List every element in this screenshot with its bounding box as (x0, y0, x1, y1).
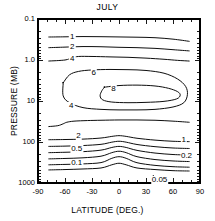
contour-label: 2 (75, 132, 81, 140)
x-tick-label: -60 (60, 188, 71, 196)
x-tick-label: 60 (169, 188, 177, 196)
contour-label: 8 (110, 85, 116, 93)
y-tick-label: 10 (27, 97, 35, 105)
contour-label: 6 (91, 69, 97, 77)
x-tick-label: 0 (117, 188, 121, 196)
contour-line-6-closed (63, 69, 188, 110)
contour-label: 0.2 (180, 152, 193, 160)
y-tick-label: 0.1 (25, 15, 35, 23)
contour-line-4-lower (49, 120, 189, 127)
y-tick-label: 1000 (18, 179, 35, 187)
contour-label: 0.05 (151, 176, 169, 184)
contour-label: 2 (69, 43, 75, 51)
x-tick-label: -90 (33, 188, 44, 196)
contour-label: 4 (69, 55, 75, 63)
x-tick-label: 90 (196, 188, 204, 196)
y-axis-title: PRESSURE (MB) (9, 53, 19, 149)
contour-label: 1 (181, 136, 187, 144)
x-tick-label: 30 (142, 188, 150, 196)
x-axis-title: LATITUDE (DEG.) (0, 205, 215, 215)
contour-chart-figure: JULY LATITUDE (DEG.) PRESSURE (MB) -90-6… (0, 0, 215, 221)
contour-label: 1 (69, 33, 75, 41)
x-tick-label: -30 (87, 188, 98, 196)
contour-label: 4 (68, 102, 74, 110)
y-tick-label: 100 (22, 138, 35, 146)
contour-line-2 (49, 136, 189, 142)
contour-label: 0.1 (70, 159, 83, 167)
y-tick-label: 1.0 (25, 56, 35, 64)
contour-label: 0.5 (70, 145, 83, 153)
